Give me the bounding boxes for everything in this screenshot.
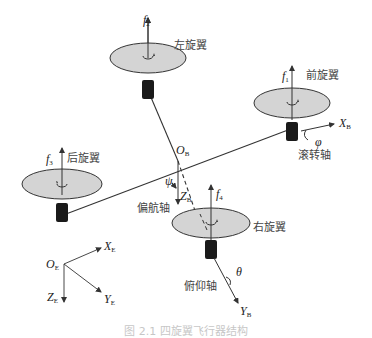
force-label-f1: f1	[282, 70, 289, 84]
pitch-axis-label: 俯仰轴	[184, 281, 217, 292]
force-label-f4: f4	[216, 188, 223, 202]
zb-axis-label: ZB	[180, 190, 191, 204]
yaw-axis-label: 偏航轴	[137, 203, 170, 214]
force-label-f2: f2	[143, 14, 150, 28]
earth-frame	[64, 248, 101, 302]
yb-axis-label: YB	[240, 305, 251, 319]
pitch-angle-label: θ	[236, 266, 242, 278]
ob-origin-label: OB	[176, 144, 189, 158]
force-label-f3: f3	[46, 153, 53, 167]
yb-axis-arrow	[214, 258, 238, 303]
roll-rotation-icon	[304, 130, 308, 140]
xe-axis-label: XE	[104, 240, 116, 254]
oe-origin-label: OE	[46, 258, 59, 272]
ze-axis-label: ZE	[47, 291, 58, 305]
ye-axis-arrow	[64, 264, 101, 292]
roll-angle-label: φ	[315, 136, 322, 148]
motor-icon	[205, 240, 217, 259]
roll-axis-label: 滚转轴	[298, 150, 331, 161]
ye-axis-label: YE	[104, 293, 115, 307]
arm-left-right	[150, 95, 178, 161]
yaw-angle-label: ψ	[165, 175, 172, 187]
motor-icon	[286, 122, 298, 141]
yaw-rotation-icon	[172, 183, 176, 188]
xb-axis-label: XB	[339, 117, 351, 131]
motor-icon	[142, 80, 154, 99]
rotor-label-rear: 后旋翼	[67, 153, 100, 164]
rotor-label-front: 前旋翼	[306, 70, 339, 81]
rotor-label-left: 左旋翼	[174, 40, 207, 51]
rotor-left	[110, 18, 186, 99]
figure-caption: 图 2.1 四旋翼飞行器结构	[0, 322, 372, 338]
rotor-label-right: 右旋翼	[253, 222, 286, 233]
xe-axis-arrow	[64, 248, 101, 264]
xb-axis-arrow	[301, 124, 334, 131]
motor-icon	[56, 203, 68, 222]
